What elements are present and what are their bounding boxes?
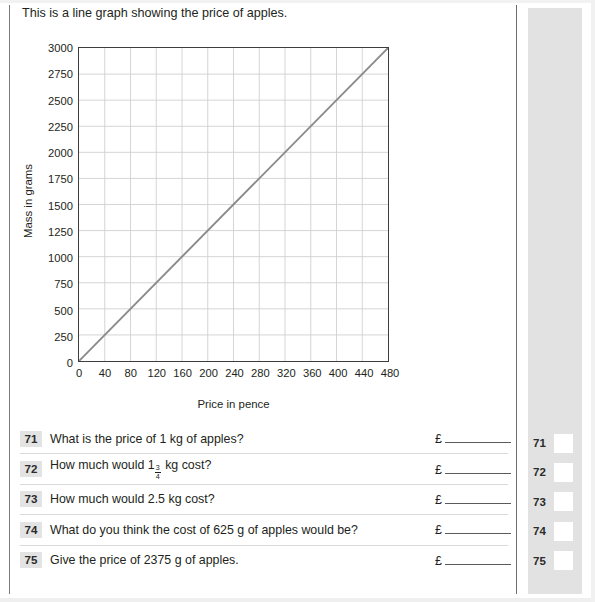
y-tick-label: 1000 — [15, 252, 73, 264]
intro-text: This is a line graph showing the price o… — [22, 6, 287, 20]
y-tick-label: 2250 — [15, 121, 73, 133]
answer-field[interactable]: £ — [435, 553, 511, 568]
mark-checkbox[interactable] — [554, 492, 573, 511]
answer-blank-line[interactable] — [445, 462, 511, 474]
answer-field[interactable]: £ — [435, 462, 511, 477]
currency-symbol: £ — [435, 432, 442, 446]
question-row: 75Give the price of 2375 g of apples.£ — [20, 546, 508, 575]
question-row: 73How much would 2.5 kg cost?£ — [20, 485, 508, 515]
mark-checkbox[interactable] — [554, 551, 573, 570]
answer-field[interactable]: £ — [435, 431, 511, 446]
mark-row-number: 74 — [528, 525, 554, 537]
currency-symbol: £ — [435, 554, 442, 568]
marking-sidebar: 7172737475 — [528, 8, 582, 594]
question-row: 71What is the price of 1 kg of apples?£ — [20, 424, 508, 454]
fraction-denominator: 4 — [155, 473, 161, 480]
y-tick-label: 1750 — [15, 173, 73, 185]
question-text: What is the price of 1 kg of apples? — [50, 432, 244, 446]
answer-blank-line[interactable] — [445, 431, 511, 443]
page-edge-right — [591, 0, 595, 602]
answer-blank-line[interactable] — [445, 522, 511, 534]
question-list: 71What is the price of 1 kg of apples?£7… — [20, 424, 508, 575]
grid-and-series — [79, 48, 388, 361]
answer-field[interactable]: £ — [435, 522, 511, 537]
question-row: 74What do you think the cost of 625 g of… — [20, 515, 508, 545]
answer-field[interactable]: £ — [435, 492, 511, 507]
y-tick-label: 1250 — [15, 226, 73, 238]
y-tick-label: 2500 — [15, 95, 73, 107]
currency-symbol: £ — [435, 463, 442, 477]
question-number: 72 — [20, 461, 42, 477]
page-edge-top — [0, 0, 595, 3]
question-text: How much would 134 kg cost? — [50, 458, 211, 480]
y-tick-label: 1500 — [15, 200, 73, 212]
x-tick-label: 480 — [370, 367, 410, 379]
question-text: What do you think the cost of 625 g of a… — [50, 523, 358, 537]
currency-symbol: £ — [435, 493, 442, 507]
answer-blank-line[interactable] — [445, 492, 511, 504]
mark-row: 74 — [528, 518, 582, 544]
line-chart: Mass in grams Price in pence 02505007501… — [12, 30, 432, 420]
question-number: 73 — [20, 491, 42, 507]
mark-checkbox[interactable] — [554, 434, 573, 453]
y-tick-label: 250 — [15, 331, 73, 343]
sidebar-divider-rule — [516, 5, 517, 594]
mark-row: 72 — [528, 459, 582, 485]
question-text: Give the price of 2375 g of apples. — [50, 553, 239, 567]
answer-blank-line[interactable] — [445, 553, 511, 565]
currency-symbol: £ — [435, 523, 442, 537]
y-tick-label: 2000 — [15, 147, 73, 159]
mark-row: 75 — [528, 548, 582, 574]
mark-checkbox[interactable] — [554, 463, 573, 482]
fraction: 34 — [155, 464, 161, 480]
mark-row-number: 72 — [528, 466, 554, 478]
y-tick-label: 3000 — [15, 42, 73, 54]
page-edge-bottom — [0, 598, 595, 602]
left-margin-rule — [9, 5, 10, 594]
y-tick-label: 500 — [15, 305, 73, 317]
mark-row-number: 75 — [528, 555, 554, 567]
mark-checkbox[interactable] — [554, 522, 573, 541]
plot-area: 0250500750100012501500175020002250250027… — [78, 47, 389, 362]
question-number: 75 — [20, 552, 42, 568]
mark-row-number: 71 — [528, 437, 554, 449]
worksheet-page: This is a line graph showing the price o… — [0, 0, 595, 602]
y-tick-label: 2750 — [15, 68, 73, 80]
mark-row: 71 — [528, 430, 582, 456]
mark-row-number: 73 — [528, 496, 554, 508]
question-row: 72How much would 134 kg cost?£ — [20, 454, 508, 484]
question-number: 74 — [20, 522, 42, 538]
question-number: 71 — [20, 431, 42, 447]
y-tick-label: 750 — [15, 278, 73, 290]
mark-row: 73 — [528, 489, 582, 515]
question-text: How much would 2.5 kg cost? — [50, 492, 215, 506]
x-axis-label: Price in pence — [78, 398, 389, 410]
